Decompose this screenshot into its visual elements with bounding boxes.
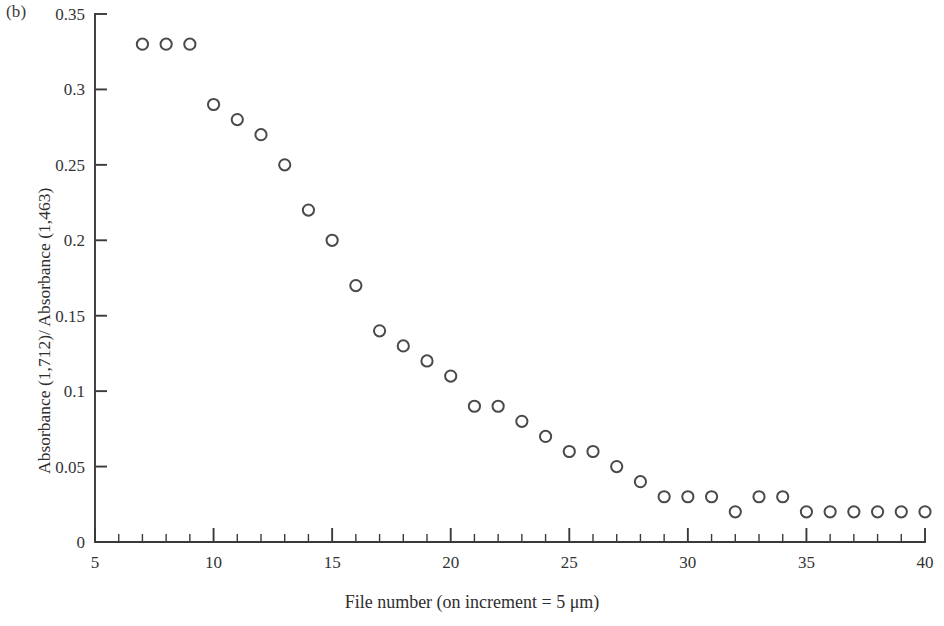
x-tick-label: 30 [679,553,696,572]
data-point-marker [587,446,598,457]
data-point-marker [469,401,480,412]
y-tick-label: 0.1 [64,382,85,401]
data-point-marker [706,491,717,502]
data-point-marker [255,129,266,140]
scatter-plot-canvas: 00.050.10.150.20.250.30.3551015202530354… [0,0,944,626]
data-point-marker [137,39,148,50]
y-tick-label: 0.05 [55,458,85,477]
data-point-marker [919,506,930,517]
figure-panel-b: (b) 00.050.10.150.20.250.30.355101520253… [0,0,944,626]
data-point-marker [232,114,243,125]
x-tick-label: 5 [91,553,100,572]
data-point-marker [421,355,432,366]
x-tick-label: 15 [324,553,341,572]
data-point-marker [801,506,812,517]
data-point-marker [825,506,836,517]
axes-group [95,14,925,542]
data-point-marker [445,370,456,381]
data-point-marker [184,39,195,50]
data-point-marker [659,491,670,502]
x-tick-label: 40 [917,553,934,572]
data-point-marker [516,416,527,427]
data-point-marker [374,325,385,336]
data-point-marker [872,506,883,517]
data-point-marker [161,39,172,50]
data-point-marker [327,235,338,246]
y-tick-label: 0.3 [64,80,85,99]
y-tick-label: 0 [77,533,86,552]
data-point-marker [848,506,859,517]
data-point-marker [682,491,693,502]
x-tick-label: 10 [205,553,222,572]
data-point-marker [350,280,361,291]
x-axis-label: File number (on increment = 5 μm) [0,592,944,613]
tick-labels-group: 00.050.10.150.20.250.30.3551015202530354… [55,5,933,572]
x-tick-label: 25 [561,553,578,572]
y-tick-label: 0.2 [64,231,85,250]
y-tick-label: 0.25 [55,156,85,175]
data-point-marker [896,506,907,517]
data-point-marker [398,340,409,351]
x-tick-label: 35 [798,553,815,572]
data-point-marker [208,99,219,110]
data-point-marker [493,401,504,412]
data-markers-group [137,39,931,518]
data-point-marker [777,491,788,502]
x-tick-label: 20 [442,553,459,572]
data-point-marker [635,476,646,487]
y-tick-label: 0.35 [55,5,85,24]
data-point-marker [564,446,575,457]
data-point-marker [540,431,551,442]
data-point-marker [753,491,764,502]
data-point-marker [279,159,290,170]
y-tick-label: 0.15 [55,307,85,326]
data-point-marker [611,461,622,472]
data-point-marker [730,506,741,517]
data-point-marker [303,205,314,216]
y-axis-label: Absorbance (1,712)/ Absorbance (1,463) [34,188,55,474]
